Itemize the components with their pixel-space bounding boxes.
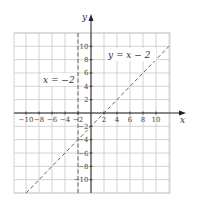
y-tick-label: 6 bbox=[84, 69, 89, 77]
y-tick-label: −4 bbox=[78, 136, 89, 144]
x-tick-label: 2 bbox=[102, 116, 106, 124]
y-tick-label: 10 bbox=[80, 43, 89, 51]
x-tick-label: −4 bbox=[60, 116, 71, 124]
x-tick-label: −10 bbox=[19, 116, 34, 124]
y-axis-label: y bbox=[81, 12, 88, 22]
line2-label: x = −2 bbox=[43, 75, 75, 85]
y-tick-label: −2 bbox=[78, 123, 88, 131]
y-tick-label: −10 bbox=[74, 176, 89, 184]
coordinate-plane: −10−8−6−4−2246810108642−2−4−6−8−10 y = x… bbox=[0, 0, 198, 204]
y-tick-label: 2 bbox=[84, 96, 88, 104]
y-tick-label: 8 bbox=[84, 56, 88, 64]
x-tick-label: 10 bbox=[152, 116, 161, 124]
line-labels: y = x − 2 x = −2 y x bbox=[41, 12, 185, 125]
y-tick-label: 4 bbox=[84, 83, 89, 91]
x-tick-label: 6 bbox=[128, 116, 133, 124]
x-tick-label: −6 bbox=[47, 116, 58, 124]
y-tick-label: −6 bbox=[78, 150, 89, 158]
x-tick-label: 8 bbox=[141, 116, 145, 124]
x-tick-label: 4 bbox=[115, 116, 120, 124]
x-tick-label: −8 bbox=[34, 116, 44, 124]
line1-label: y = x − 2 bbox=[107, 50, 151, 60]
x-axis-label: x bbox=[180, 115, 185, 125]
y-tick-label: −8 bbox=[78, 163, 88, 171]
y-axis-arrow-icon bbox=[89, 14, 94, 21]
